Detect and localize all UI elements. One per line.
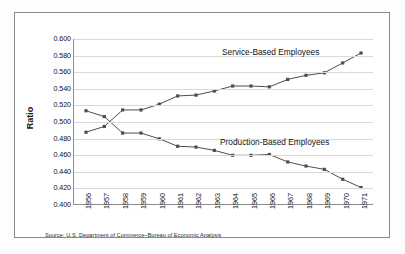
data-point-marker xyxy=(213,149,216,152)
data-point-marker xyxy=(286,78,289,81)
gridline xyxy=(74,105,373,106)
data-point-marker xyxy=(121,108,124,111)
gridline xyxy=(74,188,373,189)
y-tick-label: 0.460 xyxy=(43,152,71,159)
data-point-marker xyxy=(84,109,87,112)
data-point-marker xyxy=(194,145,197,148)
y-tick-label: 0.540 xyxy=(43,85,71,92)
series-label-production: Production-Based Employees xyxy=(220,137,329,147)
data-point-marker xyxy=(84,131,87,134)
data-point-marker xyxy=(323,168,326,171)
data-point-marker xyxy=(341,178,344,181)
data-point-marker xyxy=(286,160,289,163)
data-point-marker xyxy=(176,145,179,148)
data-point-marker xyxy=(176,94,179,97)
data-point-marker xyxy=(249,84,252,87)
chart-page: Ratio 0.6000.5800.5600.5400.5200.5000.48… xyxy=(0,0,405,254)
data-point-marker xyxy=(103,125,106,128)
data-point-marker xyxy=(304,164,307,167)
data-point-marker xyxy=(121,131,124,134)
y-tick-label: 0.500 xyxy=(43,118,71,125)
gridline xyxy=(74,72,373,73)
data-point-marker xyxy=(213,89,216,92)
y-axis-tick-labels: 0.6000.5800.5600.5400.5200.5000.4800.460… xyxy=(43,39,71,205)
y-axis-title: Ratio xyxy=(23,83,37,153)
gridline xyxy=(74,89,373,90)
gridline xyxy=(74,172,373,173)
gridline xyxy=(74,122,373,123)
data-point-marker xyxy=(304,74,307,77)
y-axis-title-text: Ratio xyxy=(25,107,35,130)
y-tick-label: 0.580 xyxy=(43,52,71,59)
data-point-marker xyxy=(139,108,142,111)
data-point-marker xyxy=(139,131,142,134)
gridline xyxy=(74,155,373,156)
y-tick-label: 0.480 xyxy=(43,135,71,142)
gridline xyxy=(74,39,373,40)
data-point-marker xyxy=(231,84,234,87)
data-point-marker xyxy=(341,61,344,64)
y-tick-label: 0.440 xyxy=(43,168,71,175)
series-line xyxy=(86,53,361,132)
plot-area xyxy=(73,39,373,205)
figure-frame: Ratio 0.6000.5800.5600.5400.5200.5000.48… xyxy=(14,12,390,238)
series-label-service: Service-Based Employees xyxy=(222,47,319,57)
data-point-marker xyxy=(103,115,106,118)
source-note: Source: U.S. Department of Commerce–Bure… xyxy=(45,232,221,238)
data-point-marker xyxy=(359,51,362,54)
x-tick-label: 1971 xyxy=(344,207,378,237)
y-tick-label: 0.420 xyxy=(43,185,71,192)
y-tick-label: 0.600 xyxy=(43,35,71,42)
y-tick-label: 0.560 xyxy=(43,69,71,76)
data-point-marker xyxy=(194,94,197,97)
y-tick-label: 0.400 xyxy=(43,201,71,208)
y-tick-label: 0.520 xyxy=(43,102,71,109)
